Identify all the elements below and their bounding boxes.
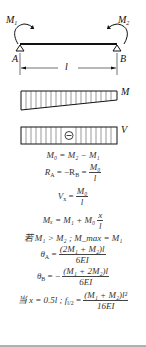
label-support-a: A — [12, 53, 18, 64]
formula-reactions: RA = −RB = M₀l — [0, 162, 146, 183]
formula-m0: M₀ = M₂ − M₁ — [0, 151, 146, 160]
formula-deflection: 当 x = 0.5l ; fl/2 = (M₁ + M₂)l²16EI — [0, 290, 146, 311]
label-moment-diagram: M — [121, 86, 129, 97]
moment-arrow-left-icon — [15, 24, 34, 44]
label-shear-diagram: V — [121, 124, 127, 135]
formula-mmax: 若 M₁ > M₂ ; M_max = M₁ — [0, 234, 146, 243]
pin-support-b-icon — [113, 45, 121, 51]
moment-arrow-right-icon — [107, 24, 127, 44]
formula-theta-a: θA = (2M₁ + M₂)l6EI — [0, 244, 146, 265]
formula-shear: Vx = M₀l — [0, 186, 146, 207]
label-m2: M2 — [118, 14, 129, 26]
label-m1: M1 — [6, 14, 17, 26]
label-span: l — [65, 61, 68, 72]
formula-moment-x: Mₓ = M₁ + M₀ xl — [0, 210, 146, 231]
label-support-b: B — [120, 53, 126, 64]
pin-support-a-icon — [16, 45, 24, 51]
formula-theta-b: θB = − (M₁ + 2M₂)l6EI — [0, 266, 146, 287]
beam-diagram — [0, 0, 146, 80]
